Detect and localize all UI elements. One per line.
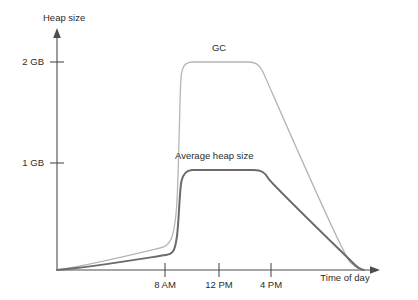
heap-size-line-chart: Heap size Time of day 2 GB 1 GB 8 AM 12 … xyxy=(0,0,418,300)
series-label-average-heap-size: Average heap size xyxy=(175,150,254,161)
x-tick-label-12pm: 12 PM xyxy=(205,279,233,290)
series-line-gc xyxy=(57,62,364,270)
y-axis xyxy=(50,28,64,270)
x-axis-arrowhead xyxy=(370,266,380,274)
y-axis-arrowhead xyxy=(53,28,61,38)
x-axis-title: Time of day xyxy=(320,272,370,283)
series-line-average xyxy=(57,170,364,270)
y-axis-title: Heap size xyxy=(43,12,85,23)
y-tick-label-1gb: 1 GB xyxy=(22,157,44,168)
x-tick-label-8am: 8 AM xyxy=(154,279,176,290)
series-label-gc: GC xyxy=(212,42,226,53)
y-tick-label-2gb: 2 GB xyxy=(22,56,44,67)
x-tick-label-4pm: 4 PM xyxy=(260,279,282,290)
chart-canvas: Heap size Time of day 2 GB 1 GB 8 AM 12 … xyxy=(0,0,418,300)
